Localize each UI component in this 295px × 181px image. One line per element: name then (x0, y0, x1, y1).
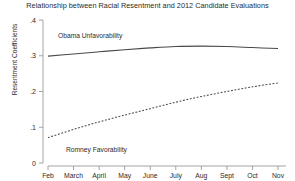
chart-figure: Relationship between Racial Resentment a… (0, 0, 295, 181)
y-tick-label: 0 (32, 160, 36, 167)
series-annotation: Romney Favorability (66, 146, 128, 154)
y-tick-group: 0.1.2.3.4 (30, 17, 43, 167)
y-axis: 0.1.2.3.4 (30, 17, 43, 167)
series-line (48, 46, 278, 56)
x-tick-label: Aug (195, 172, 207, 180)
x-tick-group: FebMarchAprilMayJuneJulyAugSeptOctNov (42, 166, 285, 180)
x-tick-label: May (118, 172, 131, 180)
plot-area: 0.1.2.3.4 FebMarchAprilMayJuneJulyAugSep… (0, 0, 295, 181)
series-group (48, 46, 278, 138)
series-line (48, 83, 278, 138)
x-tick-label: Feb (42, 172, 54, 179)
x-tick-label: July (170, 172, 183, 180)
x-tick-label: Sept (220, 172, 234, 180)
y-tick-label: .4 (30, 17, 36, 24)
series-annotation: Obama Unfavorability (58, 32, 123, 40)
x-axis: FebMarchAprilMayJuneJulyAugSeptOctNov (42, 166, 286, 180)
y-tick-label: .2 (30, 88, 36, 95)
x-tick-label: March (64, 172, 83, 179)
x-tick-label: Nov (272, 172, 285, 179)
y-tick-label: .1 (30, 124, 36, 131)
x-tick-label: April (92, 172, 106, 180)
x-tick-label: June (143, 172, 158, 179)
x-tick-label: Oct (247, 172, 258, 179)
y-tick-label: .3 (30, 52, 36, 59)
